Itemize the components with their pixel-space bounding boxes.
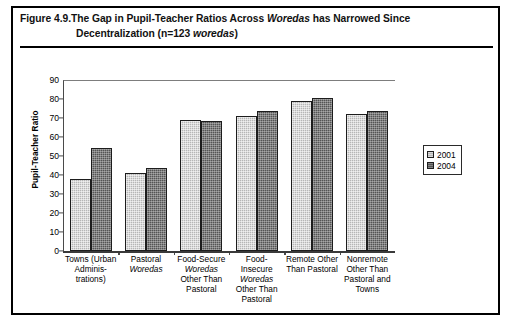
x-axis-label: Remote OtherThan Pastoral <box>280 255 343 275</box>
x-axis-label: Towns (UrbanAdminis-trations) <box>59 255 122 285</box>
x-axis-label: Food-InsecureWoredasOther ThanPastoral <box>225 255 288 305</box>
figure-number: Figure 4.9. <box>20 13 71 24</box>
x-axis-label: PastoralWoredas <box>114 255 177 275</box>
bar-group <box>291 80 333 251</box>
chart-area: Pupil-Teacher Ratio 0102030405060708090 … <box>13 52 498 313</box>
y-axis-title: Pupil-Teacher Ratio <box>31 90 40 210</box>
x-axis-label-line: trations) <box>59 275 122 285</box>
bar-2001[interactable] <box>236 116 257 251</box>
legend-item-2001[interactable]: 2001 <box>427 149 456 160</box>
x-axis-label-line: Woredas <box>114 265 177 275</box>
bar-2001[interactable] <box>70 179 91 251</box>
y-tick-label-10: 10 <box>49 227 59 237</box>
bar-2001[interactable] <box>291 101 312 251</box>
bar-2001[interactable] <box>346 114 367 251</box>
bar-series-container <box>63 80 395 251</box>
legend-label: 2001 <box>437 150 456 160</box>
bar-group <box>180 80 222 251</box>
plot-area: 0102030405060708090 <box>63 80 395 251</box>
y-tick-label-60: 60 <box>49 132 59 142</box>
caption-divider <box>20 46 493 48</box>
caption-line-2-part-a: Decentralization (n=123 <box>76 28 193 39</box>
caption-line-1-part-a: The Gap in Pupil-Teacher Ratios Across <box>71 13 267 24</box>
y-tick-label-50: 50 <box>49 151 59 161</box>
y-tick-label-30: 30 <box>49 189 59 199</box>
figure-caption: Figure 4.9.The Gap in Pupil-Teacher Rati… <box>20 12 490 41</box>
bar-group <box>125 80 167 251</box>
bar-2004[interactable] <box>146 168 167 251</box>
x-axis-label-line-italic: Woredas <box>240 274 273 284</box>
bar-group <box>236 80 278 251</box>
x-axis-label-line-italic: Woredas <box>129 264 162 274</box>
bar-2004[interactable] <box>257 111 278 251</box>
caption-line-2: Decentralization (n=123 woredas) <box>20 27 490 42</box>
x-axis-label-line: Towns <box>336 285 399 295</box>
caption-line-2-italic: woredas <box>193 28 234 39</box>
caption-line-1-italic: Woredas <box>267 13 310 24</box>
caption-line-2-part-b: ) <box>234 28 237 39</box>
bar-2001[interactable] <box>125 173 146 251</box>
y-tick-label-90: 90 <box>49 75 59 85</box>
bar-2001[interactable] <box>180 120 201 251</box>
y-tick-label-70: 70 <box>49 113 59 123</box>
x-axis-label-line: Than Pastoral <box>280 265 343 275</box>
figure-frame: Figure 4.9.The Gap in Pupil-Teacher Rati… <box>11 6 500 315</box>
caption-line-1-part-b: has Narrowed Since <box>310 13 410 24</box>
x-axis-label-line: Pastoral <box>170 285 233 295</box>
bar-group <box>70 80 112 251</box>
x-axis-labels: Towns (UrbanAdminis-trations)PastoralWor… <box>63 255 395 313</box>
bar-2004[interactable] <box>201 121 222 251</box>
caption-line-1: Figure 4.9.The Gap in Pupil-Teacher Rati… <box>20 12 490 27</box>
bar-group <box>346 80 388 251</box>
x-axis-label-line-italic: Woredas <box>185 264 218 274</box>
x-axis-label: Food-SecureWoredasOther ThanPastoral <box>170 255 233 295</box>
dark-gray-swatch <box>427 162 434 169</box>
legend-label: 2004 <box>437 161 456 171</box>
bar-2004[interactable] <box>367 111 388 251</box>
x-axis-label: NonremoteOther ThanPastoral andTowns <box>336 255 399 295</box>
bar-2004[interactable] <box>312 98 333 251</box>
legend-item-2004[interactable]: 2004 <box>427 160 456 171</box>
y-tick-label-80: 80 <box>49 94 59 104</box>
light-gray-swatch <box>427 151 434 158</box>
x-axis-label-line: Pastoral <box>225 295 288 305</box>
x-axis-line <box>63 251 395 253</box>
bar-2004[interactable] <box>91 148 112 251</box>
y-tick-label-40: 40 <box>49 170 59 180</box>
chart-legend: 20012004 <box>423 145 462 175</box>
y-tick-label-20: 20 <box>49 208 59 218</box>
